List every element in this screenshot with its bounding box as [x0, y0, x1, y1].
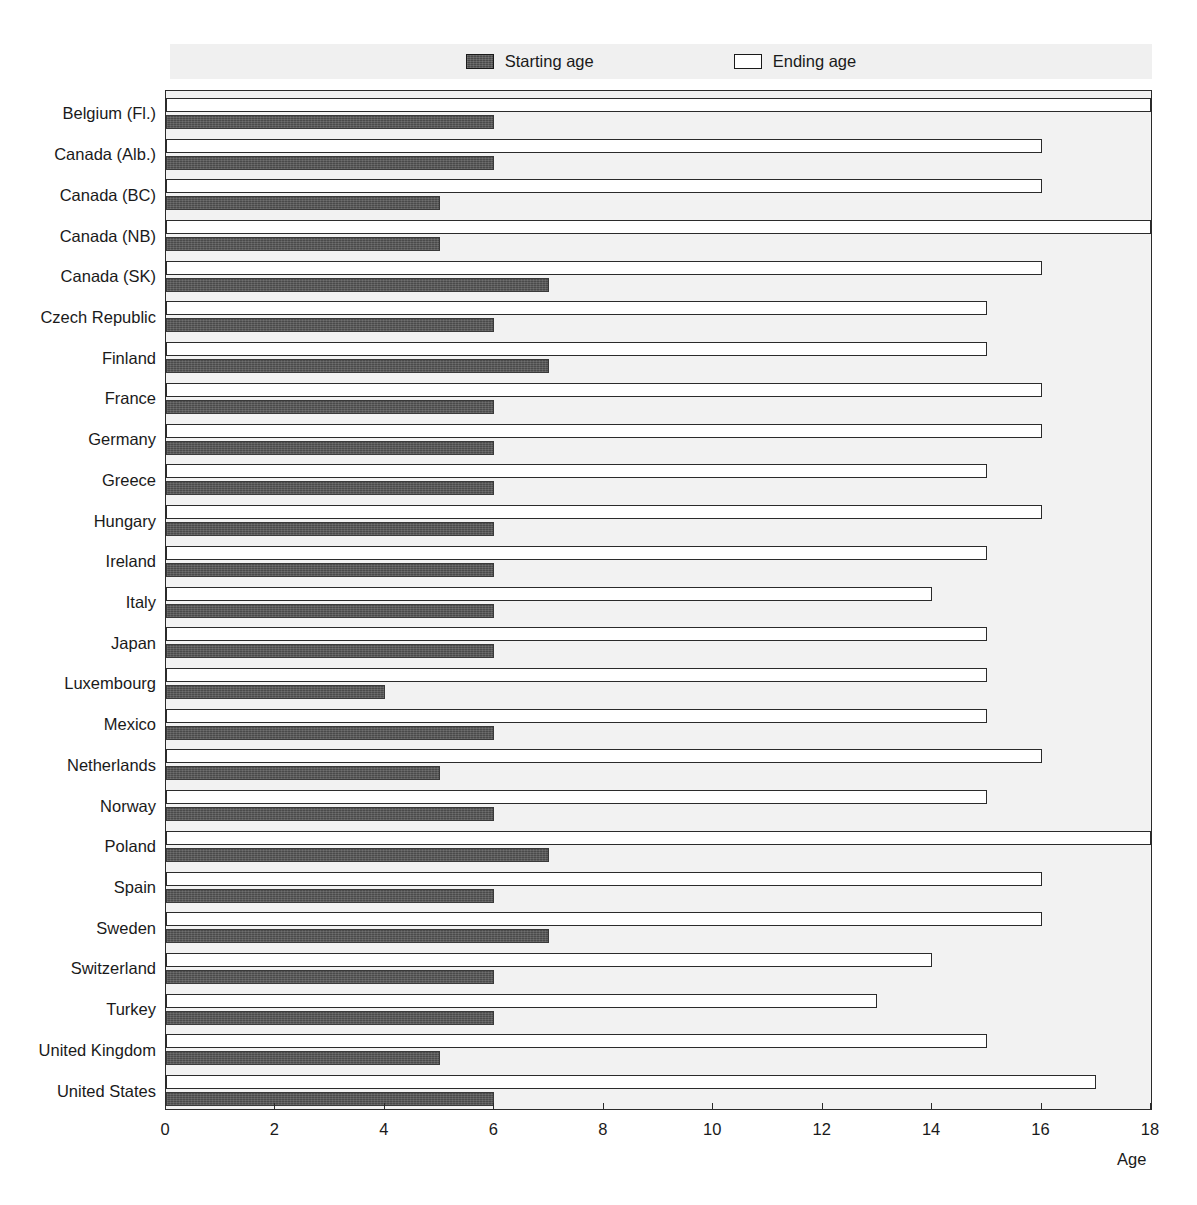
y-axis-label: Norway: [0, 798, 156, 815]
bar-starting-age: [166, 156, 494, 170]
y-axis-label: Turkey: [0, 1001, 156, 1018]
y-axis-label: Sweden: [0, 920, 156, 937]
x-axis-tick-label: 0: [160, 1120, 169, 1139]
legend-item-starting-age: Starting age: [466, 52, 594, 71]
bar-starting-age: [166, 766, 440, 780]
x-axis: 024681012141618: [165, 1110, 1152, 1111]
x-axis-tick: [822, 1103, 823, 1110]
y-axis-label: Mexico: [0, 716, 156, 733]
y-axis-label: Canada (SK): [0, 268, 156, 285]
bar-ending-age: [166, 790, 987, 804]
legend-label-starting-age: Starting age: [505, 52, 594, 71]
y-axis-label: Canada (Alb.): [0, 146, 156, 163]
x-axis-tick-label: 6: [489, 1120, 498, 1139]
bar-ending-age: [166, 709, 987, 723]
x-axis-tick: [931, 1103, 932, 1110]
bar-ending-age: [166, 220, 1151, 234]
bar-ending-age: [166, 1075, 1096, 1089]
bar-starting-age: [166, 889, 494, 903]
x-axis-tick-label: 2: [270, 1120, 279, 1139]
bar-ending-age: [166, 383, 1042, 397]
y-axis-label: Italy: [0, 594, 156, 611]
legend-swatch-ending-age: [734, 54, 762, 69]
bar-ending-age: [166, 424, 1042, 438]
y-axis-label: Netherlands: [0, 757, 156, 774]
x-axis-tick: [493, 1103, 494, 1110]
y-axis-label: Switzerland: [0, 960, 156, 977]
y-axis-label: Japan: [0, 635, 156, 652]
bar-starting-age: [166, 604, 494, 618]
bar-starting-age: [166, 726, 494, 740]
y-axis-label: Belgium (Fl.): [0, 105, 156, 122]
bar-ending-age: [166, 912, 1042, 926]
bar-starting-age: [166, 115, 494, 129]
y-axis-label: Luxembourg: [0, 675, 156, 692]
bar-starting-age: [166, 196, 440, 210]
bar-ending-age: [166, 1034, 987, 1048]
bar-starting-age: [166, 807, 494, 821]
bar-ending-age: [166, 301, 987, 315]
x-axis-tick-label: 8: [598, 1120, 607, 1139]
bar-ending-age: [166, 342, 987, 356]
bar-starting-age: [166, 318, 494, 332]
x-axis-tick: [384, 1103, 385, 1110]
bar-ending-age: [166, 546, 987, 560]
y-axis-label: United Kingdom: [0, 1042, 156, 1059]
x-axis-tick-label: 12: [812, 1120, 830, 1139]
bar-ending-age: [166, 668, 987, 682]
x-axis-tick-label: 14: [922, 1120, 940, 1139]
bar-starting-age: [166, 441, 494, 455]
legend-swatch-starting-age: [466, 54, 494, 69]
x-axis-tick: [165, 1103, 166, 1110]
bar-starting-age: [166, 970, 494, 984]
legend-item-ending-age: Ending age: [734, 52, 857, 71]
bar-ending-age: [166, 994, 877, 1008]
bar-ending-age: [166, 505, 1042, 519]
bar-starting-age: [166, 1051, 440, 1065]
y-axis-label: Canada (BC): [0, 187, 156, 204]
x-axis-tick-label: 16: [1031, 1120, 1049, 1139]
y-axis-label: United States: [0, 1083, 156, 1100]
y-axis-label: Greece: [0, 472, 156, 489]
bar-starting-age: [166, 1092, 494, 1106]
bar-ending-age: [166, 587, 932, 601]
chart-legend: Starting age Ending age: [170, 44, 1152, 79]
bar-ending-age: [166, 464, 987, 478]
x-axis-tick: [1150, 1103, 1151, 1110]
bar-ending-age: [166, 179, 1042, 193]
bar-starting-age: [166, 522, 494, 536]
y-axis-label: Hungary: [0, 513, 156, 530]
bar-ending-age: [166, 872, 1042, 886]
bar-ending-age: [166, 627, 987, 641]
bar-starting-age: [166, 237, 440, 251]
bar-starting-age: [166, 563, 494, 577]
x-axis-tick: [712, 1103, 713, 1110]
bar-ending-age: [166, 831, 1151, 845]
bar-ending-age: [166, 749, 1042, 763]
bar-starting-age: [166, 359, 549, 373]
bar-starting-age: [166, 929, 549, 943]
x-axis-tick-label: 4: [379, 1120, 388, 1139]
x-axis-tick-label: 10: [703, 1120, 721, 1139]
bar-ending-age: [166, 139, 1042, 153]
y-axis-label: Ireland: [0, 553, 156, 570]
bar-starting-age: [166, 685, 385, 699]
y-axis-label: Czech Republic: [0, 309, 156, 326]
bar-starting-age: [166, 1011, 494, 1025]
bar-starting-age: [166, 400, 494, 414]
x-axis-tick-label: 18: [1141, 1120, 1159, 1139]
y-axis-label: Spain: [0, 879, 156, 896]
bar-starting-age: [166, 278, 549, 292]
bar-ending-age: [166, 261, 1042, 275]
x-axis-title: Age: [1117, 1150, 1146, 1169]
y-axis-label: France: [0, 390, 156, 407]
legend-label-ending-age: Ending age: [773, 52, 857, 71]
x-axis-tick: [603, 1103, 604, 1110]
y-axis-label: Poland: [0, 838, 156, 855]
x-axis-tick: [1041, 1103, 1042, 1110]
bar-starting-age: [166, 644, 494, 658]
bar-starting-age: [166, 481, 494, 495]
bar-ending-age: [166, 98, 1151, 112]
bar-starting-age: [166, 848, 549, 862]
y-axis-label: Canada (NB): [0, 228, 156, 245]
